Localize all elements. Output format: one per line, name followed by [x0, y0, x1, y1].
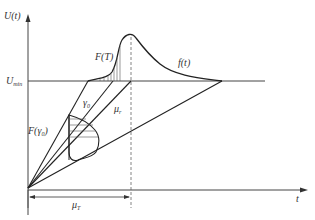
u-min-label: Umin — [6, 75, 22, 87]
x-axis — [28, 188, 308, 193]
f-gamma0-label: F(γ0) — [27, 125, 48, 137]
x-axis-arrow-icon — [300, 188, 308, 193]
f-T-label: F(T) — [94, 51, 114, 63]
mu-t-dimension — [29, 195, 130, 199]
gamma0-label: γ0 — [83, 97, 90, 109]
x-axis-label: t — [296, 193, 299, 204]
y-axis-label: U(t) — [4, 10, 21, 22]
rays — [28, 81, 222, 188]
diagram-canvas: U(t) t Umin F(T) f(t) γ0 μr F(γ0) μT — [0, 0, 315, 220]
f-gamma0-curve — [69, 115, 99, 161]
y-axis-arrow-icon — [26, 14, 31, 22]
mu-T-label: μT — [71, 199, 81, 211]
f-t-label: f(t) — [178, 57, 191, 69]
mu-r-label: μr — [113, 103, 122, 115]
